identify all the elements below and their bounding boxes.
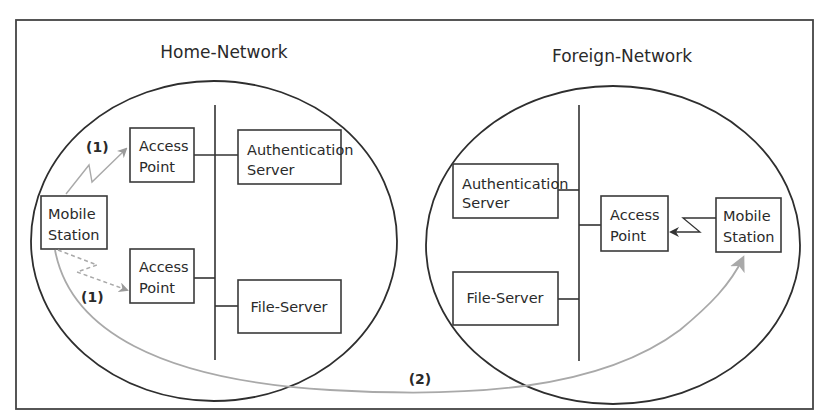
foreign-mobile-station-label-line1: Mobile — [723, 208, 771, 224]
diagram-canvas: Home-Network Foreign-Network Access Poin… — [0, 0, 826, 418]
foreign-access-point-label-line2: Point — [610, 228, 646, 244]
home-mobile-station-label-line1: Mobile — [48, 206, 96, 222]
wireless-link-foreign-icon — [671, 218, 716, 232]
foreign-access-point: Access Point — [601, 196, 668, 251]
step-label-1-bottom: (1) — [81, 289, 104, 305]
foreign-authentication-server-label-line1: Authentication — [462, 176, 568, 192]
home-mobile-station: Mobile Station — [41, 196, 107, 249]
foreign-mobile-station-label-line2: Station — [723, 229, 775, 245]
home-mobile-station-label-line2: Station — [48, 227, 100, 243]
foreign-access-point-label-line1: Access — [610, 207, 660, 223]
home-authentication-server-label-line2: Server — [247, 162, 295, 178]
foreign-mobile-station: Mobile Station — [716, 198, 781, 252]
home-file-server: File-Server — [238, 280, 341, 333]
foreign-file-server: File-Server — [453, 272, 558, 325]
network-roaming-diagram: Home-Network Foreign-Network Access Poin… — [0, 0, 826, 418]
home-access-point-1-label-line1: Access — [139, 138, 189, 154]
foreign-authentication-server-label-line2: Server — [462, 195, 510, 211]
home-access-point-2: Access Point — [130, 249, 194, 303]
home-authentication-server: Authentication Server — [238, 130, 353, 184]
step-label-2: (2) — [409, 371, 432, 387]
home-access-point-1-label-line2: Point — [139, 159, 175, 175]
wireless-link-ap2-dashed-icon — [58, 250, 127, 290]
foreign-network-title: Foreign-Network — [552, 46, 692, 66]
foreign-file-server-label: File-Server — [466, 290, 543, 306]
home-access-point-2-label-line2: Point — [139, 280, 175, 296]
diagram-frame — [16, 20, 813, 409]
home-access-point-2-label-line1: Access — [139, 259, 189, 275]
home-network-title: Home-Network — [160, 42, 287, 62]
home-access-point-1: Access Point — [130, 128, 194, 182]
home-network: Access Point Access Point Authentication… — [41, 105, 353, 360]
step-label-1-top: (1) — [86, 139, 109, 155]
wireless-link-ap1-icon — [66, 149, 126, 194]
home-authentication-server-label-line1: Authentication — [247, 142, 353, 158]
home-file-server-label: File-Server — [250, 299, 327, 315]
foreign-network: Authentication Server File-Server Access… — [453, 105, 781, 361]
foreign-authentication-server: Authentication Server — [453, 164, 568, 218]
